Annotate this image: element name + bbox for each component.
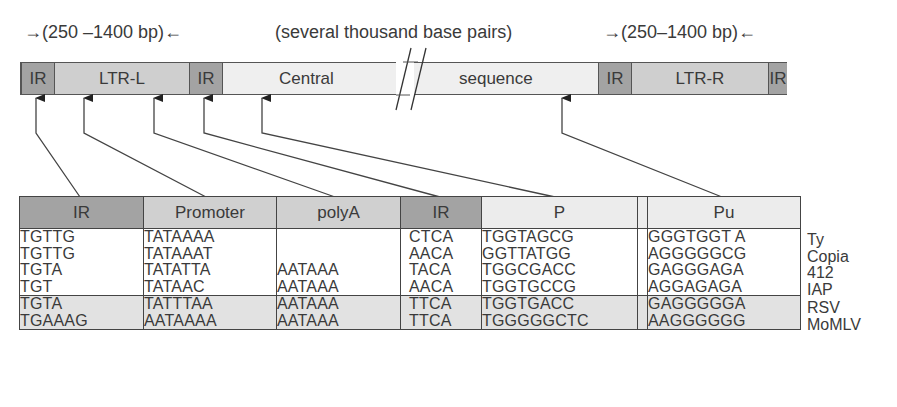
organism-label: Copia	[807, 249, 849, 266]
cell-promoter: TATTTAAAATAAAA	[144, 296, 277, 330]
organism-label: Ty	[807, 232, 849, 249]
cell-pu: GAGGGGGAAAGGGGGG	[648, 296, 801, 330]
cell-pu: GGGTGGT AAGGGGGCGGAGGGAGAAGGAGAGA	[648, 229, 801, 296]
organism-label: 412	[807, 265, 849, 282]
cell-polya: AATAAAAATAAA	[277, 229, 401, 296]
arrow-ir-left	[36, 98, 80, 197]
cell-polya: AATAAAAATAAA	[277, 296, 401, 330]
header-ir-inner: IR	[401, 197, 482, 229]
cell-p: TGGTGACCTGGGGGCTC	[482, 296, 638, 330]
arrow-ir-inner	[204, 98, 440, 197]
cell-promoter: TATAAAATATAAATTATATTATATAAC	[144, 229, 277, 296]
consensus-sequence-table: IR Promoter polyA IR P Pu TGTTGTGTTGTGTA…	[19, 196, 801, 330]
arrow-polya	[154, 98, 335, 197]
cell-ir: TGTTGTGTTGTGTATGT	[20, 229, 144, 296]
header-promoter: Promoter	[144, 197, 277, 229]
arrow-pu	[562, 98, 722, 197]
organism-label: IAP	[807, 282, 849, 299]
organism-labels-group1: Ty Copia 412 IAP	[807, 232, 849, 298]
arrow-p	[262, 98, 555, 197]
cell-ir: TGTATGAAAG	[20, 296, 144, 330]
header-spacer	[638, 197, 648, 229]
header-ir: IR	[20, 197, 144, 229]
header-polya: polyA	[277, 197, 401, 229]
table-group-retrotransposons: TGTTGTGTTGTGTATGT TATAAAATATAAATTATATTAT…	[20, 229, 801, 296]
cell-p: TGGTAGCGGGTTATGGTGGCGACCTGGTGCCG	[482, 229, 638, 296]
organism-labels-group2: RSV MoMLV	[807, 300, 861, 333]
header-p: P	[482, 197, 638, 229]
table-header-row: IR Promoter polyA IR P Pu	[20, 197, 801, 229]
cell-spacer	[638, 296, 648, 330]
organism-label: RSV	[807, 300, 861, 317]
header-pu: Pu	[648, 197, 801, 229]
table-group-retroviruses: TGTATGAAAG TATTTAAAATAAAA AATAAAAATAAA T…	[20, 296, 801, 330]
cell-ir-inner: TTCATTCA	[401, 296, 482, 330]
organism-label: MoMLV	[807, 317, 861, 334]
cell-spacer	[638, 229, 648, 296]
cell-ir-inner: CTCAAACATACAAACA	[401, 229, 482, 296]
arrow-promoter	[84, 98, 206, 197]
